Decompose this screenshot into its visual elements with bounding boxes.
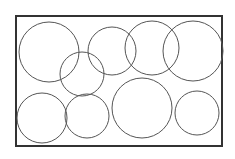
circles-group bbox=[17, 21, 223, 143]
diagram-svg bbox=[0, 0, 235, 159]
circle-8 bbox=[112, 78, 172, 138]
circle-1 bbox=[19, 22, 79, 82]
circle-6 bbox=[17, 93, 67, 143]
circle-7 bbox=[65, 94, 109, 138]
circle-4 bbox=[125, 21, 179, 75]
circle-diagram bbox=[0, 0, 235, 159]
circle-2 bbox=[60, 52, 104, 96]
circle-9 bbox=[175, 91, 219, 135]
circle-5 bbox=[163, 21, 223, 81]
